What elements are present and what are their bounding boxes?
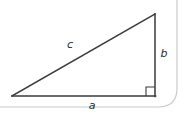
horizontal-leg-label: a: [89, 99, 96, 112]
hypotenuse-line: [12, 14, 155, 96]
right-triangle-figure: c b a: [0, 0, 189, 118]
vertical-leg-label: b: [161, 47, 168, 60]
right-angle-icon: [146, 87, 155, 96]
hypotenuse-label: c: [67, 38, 73, 51]
triangle-canvas: c b a: [0, 0, 189, 118]
